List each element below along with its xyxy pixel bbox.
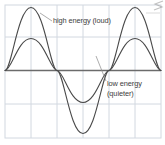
low-energy-label: low energy (quieter): [107, 79, 159, 99]
waveform-amplitude-figure: high energy (loud) low energy (quieter): [0, 0, 165, 145]
low-energy-label-line2: (quieter): [107, 89, 134, 98]
high-energy-label: high energy (loud): [53, 16, 111, 25]
low-energy-label-line1: low energy: [107, 79, 142, 88]
high-energy-label-text: high energy (loud): [53, 16, 111, 25]
